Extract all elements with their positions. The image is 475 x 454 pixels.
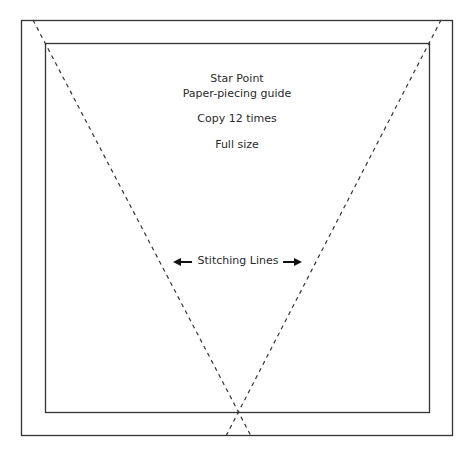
stitching-lines-label: Stitching Lines <box>197 254 279 267</box>
scale-instruction: Full size <box>187 138 287 151</box>
star-point-diagram <box>0 0 475 454</box>
left-arrow-icon <box>173 258 192 266</box>
right-arrow-icon <box>283 258 302 266</box>
title-line-2: Paper-piecing guide <box>167 87 307 100</box>
title-line-1: Star Point <box>187 72 287 85</box>
copies-instruction: Copy 12 times <box>177 112 297 125</box>
